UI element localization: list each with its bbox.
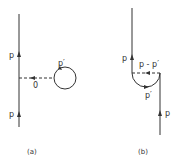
label-boson-momentum: 0 <box>33 81 38 90</box>
label-p-lower: p <box>9 110 14 119</box>
label-boson-momentum: p - p′ <box>139 60 159 69</box>
panel-a: p p 0 p′ (a) <box>9 14 76 156</box>
label-p-upper: p <box>122 54 127 63</box>
caption-a: (a) <box>27 148 37 156</box>
feynman-diagrams: p p 0 p′ (a) p p p - p′ p′ (b) <box>0 0 178 160</box>
arrow-left-icon <box>145 71 150 75</box>
fermion-loop <box>54 67 76 89</box>
panel-b: p p p - p′ p′ (b) <box>122 8 170 156</box>
label-loop-momentum: p′ <box>58 59 65 68</box>
arrow-up-icon <box>17 51 21 57</box>
label-p-lower: p <box>165 109 170 118</box>
arrow-left-icon <box>30 76 35 80</box>
arrow-right-icon <box>144 85 149 89</box>
fermion-propagator-arc <box>132 73 160 87</box>
arrow-up-icon <box>158 110 162 116</box>
arrow-up-icon <box>17 111 21 117</box>
label-arc-momentum: p′ <box>145 91 152 100</box>
arrow-up-icon <box>130 54 134 60</box>
label-p-upper: p <box>9 51 14 60</box>
caption-b: (b) <box>138 148 148 156</box>
